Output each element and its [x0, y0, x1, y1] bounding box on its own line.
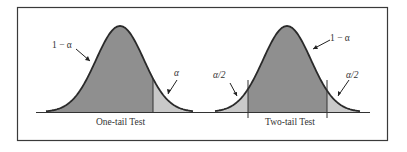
one-tail-center-label: 1 − α: [52, 40, 72, 50]
one-tail-alpha-label: α: [174, 68, 179, 78]
two-tail-left-alpha-label: α/2: [213, 70, 225, 80]
two-tail-right-alpha-label: α/2: [346, 70, 358, 80]
one-tail-title: One-tail Test: [96, 117, 145, 127]
two-tail-title: Two-tail Test: [265, 117, 315, 127]
frame: [18, 8, 388, 141]
two-tail-center-label: 1 − α: [330, 33, 350, 43]
